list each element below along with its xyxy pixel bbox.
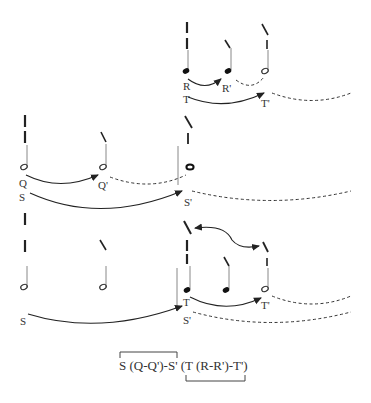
label-T-prime: T' <box>261 299 270 311</box>
label-Q: Q <box>19 177 27 189</box>
slash-mark <box>262 24 268 35</box>
level-middle: Q Q' S S' <box>19 115 351 209</box>
dashed-continuation <box>192 191 351 201</box>
dashed-continuation <box>272 296 351 304</box>
label-Q-prime: Q' <box>98 179 108 191</box>
formula: S (Q-Q')-S' (T (R-R')-T') <box>119 352 248 381</box>
whole-notehead-icon <box>186 164 193 169</box>
open-notehead-icon <box>20 283 28 290</box>
arrow-S-to-Sprime <box>30 191 182 209</box>
prolongation-diagram: R R' T T' Q Q' S S' <box>0 0 371 403</box>
label-R-prime: R' <box>222 82 231 94</box>
arrow-T-to-Tprime <box>188 93 264 104</box>
formula-text: S (Q-Q')-S' (T (R-R')-T') <box>119 358 248 373</box>
label-R: R <box>183 80 191 92</box>
slash-mark <box>263 242 268 252</box>
dashed-continuation <box>193 312 351 323</box>
bracket-bottom <box>186 375 245 381</box>
label-S-prime: S' <box>183 314 191 326</box>
diagram-canvas: R R' T T' Q Q' S S' <box>0 0 371 403</box>
arrow-Q-to-Qprime <box>26 175 98 184</box>
slash-mark <box>184 221 191 234</box>
dashed-continuation <box>110 175 186 184</box>
label-T: T <box>183 93 190 105</box>
formula-right: (T (R-R')-T') <box>178 358 248 373</box>
open-notehead-icon <box>261 285 269 292</box>
slash-mark <box>101 132 106 142</box>
formula-left: S (Q-Q')-S' <box>119 358 178 373</box>
arrow-S-to-Sprime <box>28 306 182 323</box>
label-S: S <box>19 191 25 203</box>
arrow-R-to-Rprime <box>188 79 221 86</box>
filled-notehead-icon <box>182 67 190 75</box>
dashed-continuation <box>236 77 264 85</box>
open-notehead-icon <box>99 163 107 170</box>
label-T: T <box>183 296 190 308</box>
slash-mark <box>185 116 192 128</box>
open-notehead-icon <box>261 67 269 74</box>
dashed-continuation <box>272 93 351 101</box>
label-S: S <box>20 315 26 327</box>
level-top: R R' T T' <box>182 22 351 109</box>
label-T-prime: T' <box>261 97 270 109</box>
slash-mark <box>224 257 229 266</box>
label-S-prime: S' <box>184 196 192 208</box>
open-notehead-icon <box>99 283 107 290</box>
arrow-T-to-Tprime <box>190 297 261 306</box>
double-arrow <box>195 227 259 247</box>
level-bottom: S T S' T' <box>20 213 351 327</box>
slash-mark <box>225 40 230 48</box>
open-notehead-icon <box>20 163 28 170</box>
slash-mark <box>100 240 106 250</box>
